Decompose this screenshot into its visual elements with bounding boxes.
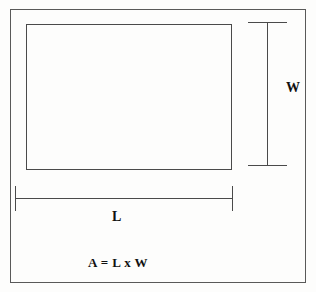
- rectangle-area-diagram: W L A = L x W: [0, 0, 316, 292]
- length-dimension-line: [15, 198, 233, 199]
- length-dimension-cap-left: [15, 186, 16, 211]
- width-dimension-cap-top: [248, 22, 287, 23]
- width-label: W: [286, 81, 300, 95]
- length-dimension-cap-right: [232, 186, 233, 211]
- width-dimension-cap-bottom: [248, 165, 287, 166]
- width-dimension-line: [267, 22, 268, 166]
- shape-rectangle: [26, 24, 232, 170]
- area-formula-label: A = L x W: [88, 256, 148, 269]
- length-label: L: [112, 210, 121, 224]
